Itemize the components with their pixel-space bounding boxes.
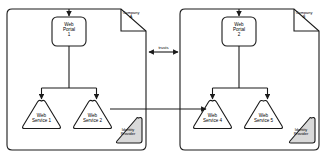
node-shape-service-2 xyxy=(74,100,112,128)
node-shape-service-4 xyxy=(194,100,232,128)
diagram-canvas: Company A Company B Web Portal 1 Web Por… xyxy=(0,0,326,163)
node-shape-service-1 xyxy=(23,100,61,128)
node-shape-portal-a xyxy=(52,17,86,46)
node-shape-idp-b xyxy=(289,117,315,143)
diagram-vector-layer xyxy=(0,0,326,163)
node-shape-portal-b xyxy=(222,17,256,46)
node-shape-idp-a xyxy=(116,117,142,143)
node-shape-service-5 xyxy=(245,100,283,128)
